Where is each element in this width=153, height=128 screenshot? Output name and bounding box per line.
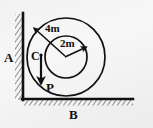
label-center-c: C (31, 50, 40, 62)
physics-diagram-figure: A B C P 4m 2m (0, 0, 153, 128)
ground-hatching (23, 100, 133, 106)
label-outer-radius: 4m (45, 23, 60, 34)
label-ground-b: B (69, 108, 78, 121)
label-point-p: P (46, 81, 54, 94)
label-inner-radius: 2m (60, 38, 75, 49)
point-c-marker (39, 53, 42, 56)
wall-hatching (15, 14, 23, 100)
label-wall-a: A (4, 51, 13, 64)
